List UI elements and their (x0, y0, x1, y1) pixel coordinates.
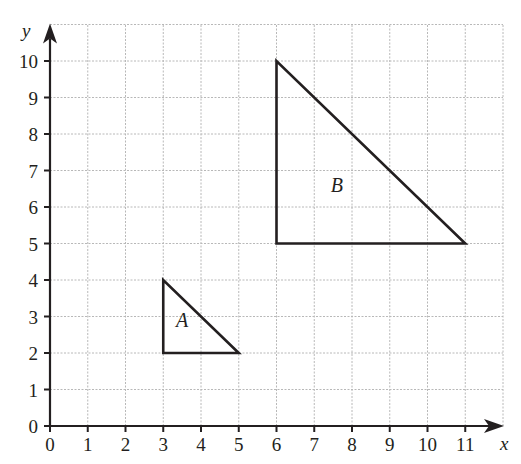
y-tick-label: 10 (19, 51, 38, 72)
triangle-a (163, 280, 239, 353)
y-tick-label: 4 (29, 270, 39, 291)
y-tick-label: 5 (29, 234, 39, 255)
x-tick-label: 1 (83, 434, 93, 455)
y-tick-label: 3 (29, 307, 39, 328)
triangle-a-label: A (174, 309, 189, 331)
y-axis-label: y (20, 20, 31, 41)
coordinate-diagram: p AB 01234567891011012345678910 x y (0, 0, 521, 464)
x-axis-label: x (499, 433, 509, 454)
triangle-b-label: B (331, 174, 343, 196)
x-tick-label: 2 (121, 434, 131, 455)
y-tick-label: 7 (29, 161, 39, 182)
axes (43, 24, 504, 434)
x-tick-label: 8 (347, 434, 357, 455)
x-tick-label: 4 (196, 434, 206, 455)
x-tick-label: 11 (456, 434, 474, 455)
x-tick-label: 10 (418, 434, 437, 455)
x-tick-label: 5 (234, 434, 244, 455)
y-tick-label: 2 (29, 343, 39, 364)
x-tick-label: 9 (385, 434, 395, 455)
x-tick-label: 6 (272, 434, 282, 455)
x-tick-label: 7 (310, 434, 320, 455)
y-tick-label: 8 (29, 124, 39, 145)
triangle-b (277, 61, 466, 244)
y-tick-label: 9 (29, 88, 39, 109)
x-tick-label: 0 (45, 434, 55, 455)
x-tick-label: 3 (159, 434, 169, 455)
y-tick-label: 1 (29, 380, 39, 401)
y-tick-label: 0 (29, 416, 39, 437)
y-tick-label: 6 (29, 197, 39, 218)
